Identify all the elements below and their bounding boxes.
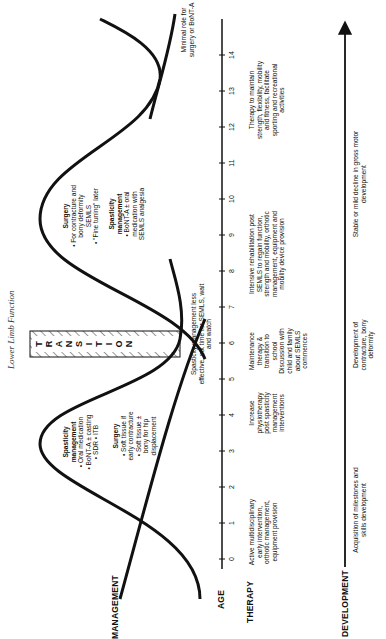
early-spasticity-box: Spasticity management Oral medication Bo… xyxy=(62,413,100,471)
therapy-5-6: Maintenance therapy & transition to scho… xyxy=(248,325,309,377)
row-label-age: AGE xyxy=(216,590,226,609)
late-surgery-box: Surgery For contracture and bony deformi… xyxy=(62,185,100,247)
age-tick-labels: 0 1 2 3 4 5 6 7 8 9 10 11 12 13 14 xyxy=(228,0,238,639)
therapy-11-14: Therapy to maintain strength, flexibilit… xyxy=(248,59,286,141)
therapy-0-2: Active multidisciplinary early intervent… xyxy=(248,497,278,567)
row-label-management: MANAGEMENT xyxy=(110,575,120,639)
wait-and-watch-note: Spasticity management less effective, no… xyxy=(190,279,213,389)
development-early: Acquisition of milestones and skills dev… xyxy=(352,465,367,555)
late-spasticity-box: Spasticity management BoNT-A ± oral medi… xyxy=(108,185,146,243)
therapy-7-10: Intensive rehabilitation post SEMLS to r… xyxy=(248,209,286,299)
minimal-role-note: Minimal role for surgery or BoNT-A xyxy=(180,1,195,59)
transition-letters: T R A N S I T I O N xyxy=(34,338,134,350)
row-label-therapy: THERAPY xyxy=(245,581,255,623)
row-label-development: DEVELOPMENT xyxy=(340,570,350,637)
development-middle: Development of contracture, bony deformi… xyxy=(352,313,375,377)
development-late: Stable or mild decline in gross motor de… xyxy=(352,129,367,239)
therapy-3-4: Increase physiotherapy post spasticity m… xyxy=(248,387,286,439)
early-surgery-box: Surgery Soft tissue if early contracture… xyxy=(112,409,158,463)
late-decline-curve xyxy=(150,14,175,119)
diagram-canvas: Lower Limb Function xyxy=(0,0,386,639)
